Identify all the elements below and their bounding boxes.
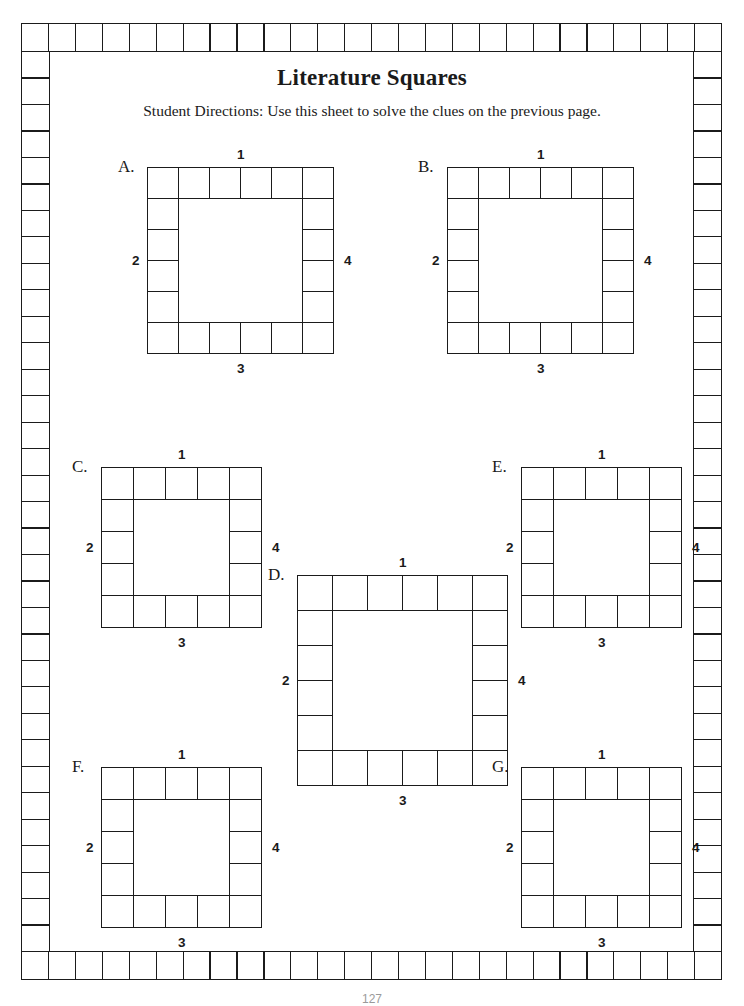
puzzle-cell[interactable]	[332, 750, 368, 786]
puzzle-cell[interactable]	[302, 322, 334, 354]
puzzle-cell[interactable]	[147, 291, 179, 323]
puzzle-cell[interactable]	[165, 895, 198, 928]
puzzle-cell[interactable]	[602, 198, 634, 230]
puzzle-cell[interactable]	[197, 895, 230, 928]
puzzle-cell[interactable]	[302, 291, 334, 323]
puzzle-cell[interactable]	[553, 467, 586, 500]
puzzle-cell[interactable]	[649, 467, 682, 500]
puzzle-cell[interactable]	[297, 680, 333, 716]
puzzle-cell[interactable]	[521, 831, 554, 864]
puzzle-cell[interactable]	[521, 895, 554, 928]
puzzle-cell[interactable]	[101, 863, 134, 896]
puzzle-cell[interactable]	[447, 291, 479, 323]
puzzle-cell[interactable]	[271, 322, 303, 354]
puzzle-cell[interactable]	[147, 260, 179, 292]
puzzle-cell[interactable]	[197, 595, 230, 628]
puzzle-cell[interactable]	[649, 595, 682, 628]
puzzle-cell[interactable]	[367, 750, 403, 786]
puzzle-cell[interactable]	[649, 499, 682, 532]
puzzle-cell[interactable]	[297, 610, 333, 646]
puzzle-cell[interactable]	[197, 767, 230, 800]
puzzle-cell[interactable]	[521, 467, 554, 500]
puzzle-cell[interactable]	[617, 767, 650, 800]
puzzle-cell[interactable]	[649, 767, 682, 800]
puzzle-cell[interactable]	[540, 322, 572, 354]
puzzle-cell[interactable]	[209, 167, 241, 199]
puzzle-cell[interactable]	[101, 895, 134, 928]
puzzle-cell[interactable]	[178, 322, 210, 354]
puzzle-cell[interactable]	[229, 563, 262, 596]
puzzle-cell[interactable]	[101, 467, 134, 500]
puzzle-cell[interactable]	[585, 467, 618, 500]
puzzle-cell[interactable]	[447, 229, 479, 261]
puzzle-cell[interactable]	[178, 167, 210, 199]
puzzle-cell[interactable]	[101, 531, 134, 564]
puzzle-cell[interactable]	[101, 767, 134, 800]
puzzle-cell[interactable]	[521, 499, 554, 532]
puzzle-cell[interactable]	[101, 831, 134, 864]
puzzle-cell[interactable]	[240, 167, 272, 199]
puzzle-cell[interactable]	[478, 322, 510, 354]
puzzle-cell[interactable]	[649, 563, 682, 596]
puzzle-cell[interactable]	[521, 863, 554, 896]
puzzle-cell[interactable]	[447, 322, 479, 354]
puzzle-cell[interactable]	[302, 167, 334, 199]
puzzle-cell[interactable]	[133, 467, 166, 500]
puzzle-cell[interactable]	[133, 595, 166, 628]
puzzle-cell[interactable]	[617, 595, 650, 628]
puzzle-cell[interactable]	[297, 645, 333, 681]
puzzle-cell[interactable]	[447, 260, 479, 292]
puzzle-cell[interactable]	[209, 322, 241, 354]
puzzle-cell[interactable]	[297, 575, 333, 611]
puzzle-cell[interactable]	[229, 895, 262, 928]
puzzle-cell[interactable]	[509, 322, 541, 354]
puzzle-cell[interactable]	[101, 563, 134, 596]
puzzle-cell[interactable]	[553, 595, 586, 628]
puzzle-cell[interactable]	[649, 799, 682, 832]
puzzle-cell[interactable]	[602, 260, 634, 292]
puzzle-cell[interactable]	[509, 167, 541, 199]
puzzle-cell[interactable]	[165, 595, 198, 628]
puzzle-cell[interactable]	[447, 167, 479, 199]
puzzle-cell[interactable]	[229, 531, 262, 564]
puzzle-cell[interactable]	[297, 715, 333, 751]
puzzle-cell[interactable]	[521, 563, 554, 596]
puzzle-cell[interactable]	[602, 291, 634, 323]
puzzle-cell[interactable]	[229, 767, 262, 800]
puzzle-cell[interactable]	[229, 799, 262, 832]
puzzle-cell[interactable]	[332, 575, 368, 611]
puzzle-cell[interactable]	[602, 167, 634, 199]
puzzle-cell[interactable]	[402, 750, 438, 786]
puzzle-cell[interactable]	[585, 895, 618, 928]
puzzle-cell[interactable]	[585, 767, 618, 800]
puzzle-cell[interactable]	[229, 467, 262, 500]
puzzle-cell[interactable]	[649, 831, 682, 864]
puzzle-cell[interactable]	[437, 575, 473, 611]
puzzle-cell[interactable]	[617, 895, 650, 928]
puzzle-cell[interactable]	[147, 167, 179, 199]
puzzle-cell[interactable]	[165, 467, 198, 500]
puzzle-cell[interactable]	[649, 895, 682, 928]
puzzle-cell[interactable]	[521, 767, 554, 800]
puzzle-cell[interactable]	[229, 831, 262, 864]
puzzle-cell[interactable]	[649, 863, 682, 896]
puzzle-cell[interactable]	[133, 767, 166, 800]
puzzle-cell[interactable]	[571, 322, 603, 354]
puzzle-cell[interactable]	[585, 595, 618, 628]
puzzle-cell[interactable]	[521, 595, 554, 628]
puzzle-cell[interactable]	[302, 260, 334, 292]
puzzle-cell[interactable]	[147, 229, 179, 261]
puzzle-cell[interactable]	[165, 767, 198, 800]
puzzle-cell[interactable]	[571, 167, 603, 199]
puzzle-cell[interactable]	[521, 799, 554, 832]
puzzle-cell[interactable]	[229, 863, 262, 896]
puzzle-cell[interactable]	[229, 595, 262, 628]
puzzle-cell[interactable]	[147, 198, 179, 230]
puzzle-cell[interactable]	[302, 229, 334, 261]
puzzle-cell[interactable]	[437, 750, 473, 786]
puzzle-cell[interactable]	[302, 198, 334, 230]
puzzle-cell[interactable]	[472, 680, 508, 716]
puzzle-cell[interactable]	[553, 895, 586, 928]
puzzle-cell[interactable]	[521, 531, 554, 564]
puzzle-cell[interactable]	[147, 322, 179, 354]
